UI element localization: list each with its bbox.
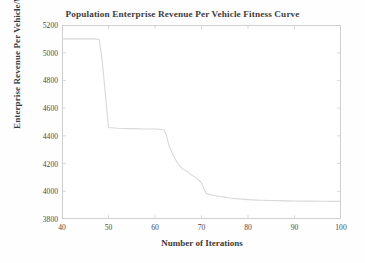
y-tick-label: 4200 (28, 160, 58, 169)
x-axis-tick-labels: 405060708090100 (0, 223, 365, 237)
tick-marks (62, 25, 341, 219)
plot-area (62, 25, 341, 219)
x-tick-label: 50 (92, 223, 126, 232)
data-line-series-0 (62, 39, 341, 202)
x-tick-label: 70 (185, 223, 219, 232)
x-tick-label: 90 (278, 223, 312, 232)
y-axis-label: Enterprise Revenue Per Vehicle/¥ (12, 0, 22, 129)
x-tick-label: 80 (231, 223, 265, 232)
y-tick-label: 5000 (28, 49, 58, 58)
y-tick-label: 4000 (28, 187, 58, 196)
chart-page: Population Enterprise Revenue Per Vehicl… (0, 0, 365, 263)
y-tick-label: 4800 (28, 76, 58, 85)
x-tick-label: 100 (324, 223, 358, 232)
y-axis-label-container: Enterprise Revenue Per Vehicle/¥ (9, 0, 25, 153)
x-tick-label: 60 (138, 223, 172, 232)
y-tick-label: 5200 (28, 21, 58, 30)
x-axis-label: Number of Iterations (62, 238, 342, 248)
y-tick-label: 4600 (28, 104, 58, 113)
x-tick-label: 40 (45, 223, 79, 232)
y-tick-label: 4400 (28, 132, 58, 141)
